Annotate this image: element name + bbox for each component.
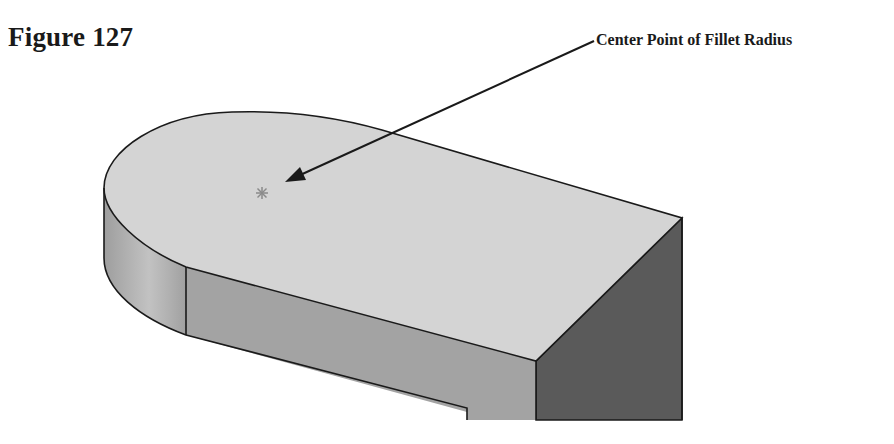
part-drawing [0,0,894,444]
fillet-center-point-icon [256,187,268,199]
